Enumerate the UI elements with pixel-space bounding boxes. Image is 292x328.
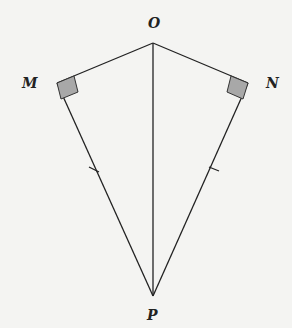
segment-np: [153, 83, 248, 296]
kite-diagram: [0, 0, 292, 328]
right-angle-marker-m: [57, 76, 78, 99]
segment-mp: [57, 83, 153, 296]
label-o: O: [148, 15, 160, 31]
tick-mark-mp: [89, 167, 99, 172]
right-angle-marker-n: [227, 76, 248, 99]
label-n: N: [266, 75, 279, 91]
tick-mark-np: [209, 167, 219, 171]
label-p: P: [147, 307, 158, 323]
geometry-figure: O M N P: [0, 0, 292, 328]
label-m: M: [22, 75, 38, 91]
